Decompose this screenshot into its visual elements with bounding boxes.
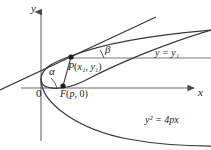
tangent-line xyxy=(0,17,156,90)
alpha-angle-label: α xyxy=(49,66,55,77)
origin-label: 0 xyxy=(36,88,42,99)
beta-angle-arc xyxy=(100,50,104,58)
point-p-marker xyxy=(68,54,73,59)
focus-label: F(p, 0) xyxy=(60,89,88,99)
x-axis-label: x xyxy=(198,87,203,98)
beta-angle-label: β xyxy=(105,44,110,55)
point-p-label: P(x₁, y₁) xyxy=(68,62,102,72)
horizontal-line-label: y = y₁ xyxy=(155,48,179,58)
parabola-tangent-diagram: y x 0 α β P(x₁, y₁) F(p, 0) y = y₁ y² = … xyxy=(0,0,211,150)
focus-paren-close: ) xyxy=(84,88,87,99)
parabola-equation-label: y² = 4px xyxy=(145,115,179,125)
alpha-angle-arc xyxy=(51,78,57,88)
point-p-paren-close: ) xyxy=(98,61,101,72)
diagram-canvas xyxy=(0,0,211,150)
y-axis-label: y xyxy=(31,3,36,14)
